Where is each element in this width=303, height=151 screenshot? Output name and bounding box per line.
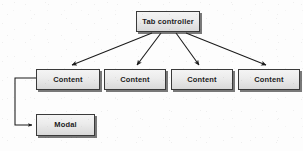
edge-tab-to-content-3 [176,33,199,65]
edge-tab-to-content-4 [186,33,266,65]
node-content-4[interactable]: Content [238,69,300,90]
node-modal[interactable]: Modal [36,114,95,136]
node-content-1[interactable]: Content [36,69,100,90]
node-modal-label: Modal [54,121,76,129]
node-tab-controller-label: Tab controller [142,18,194,26]
edge-content-1-to-modal [15,78,36,125]
node-content-3-label: Content [187,76,216,84]
node-tab-controller[interactable]: Tab controller [136,11,200,32]
node-content-2-label: Content [120,76,149,84]
diagram-canvas: Tab controller Content Content Content C… [0,0,303,151]
node-content-2[interactable]: Content [104,69,166,90]
node-content-1-label: Content [53,76,82,84]
node-content-4-label: Content [254,76,283,84]
node-content-3[interactable]: Content [171,69,233,90]
